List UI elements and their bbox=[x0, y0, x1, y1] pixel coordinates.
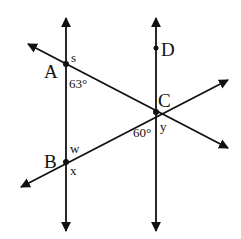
angle-y-label: y bbox=[160, 119, 167, 134]
point-a-label: A bbox=[44, 61, 58, 82]
angle-60-label: 60° bbox=[133, 125, 151, 140]
point-d-dot bbox=[154, 46, 159, 51]
geometry-diagram: A B C D s 63° w x 60° y bbox=[0, 0, 241, 239]
point-a-dot bbox=[63, 61, 69, 67]
angle-63-label: 63° bbox=[69, 76, 87, 91]
point-b-dot bbox=[63, 159, 69, 165]
angle-x-label: x bbox=[70, 163, 77, 178]
point-c-label: C bbox=[158, 90, 171, 111]
point-b-label: B bbox=[44, 151, 57, 172]
point-d-label: D bbox=[161, 39, 175, 60]
angle-s-label: s bbox=[71, 50, 76, 65]
angle-w-label: w bbox=[70, 141, 80, 156]
